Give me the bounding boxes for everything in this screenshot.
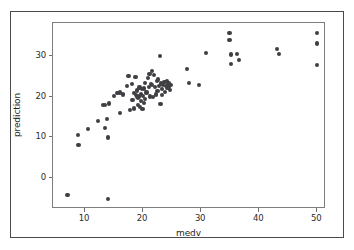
- data-point: [143, 81, 147, 85]
- data-point: [118, 111, 122, 115]
- data-point: [126, 74, 130, 78]
- y-tick-mark: [49, 55, 53, 56]
- data-point: [275, 47, 279, 51]
- data-point: [96, 119, 100, 123]
- data-point: [154, 92, 158, 96]
- y-tick-label: 30: [28, 50, 46, 60]
- data-point: [146, 76, 150, 80]
- y-axis-label: prediction: [12, 93, 22, 137]
- data-point: [158, 54, 162, 58]
- data-point: [130, 98, 134, 102]
- data-point: [204, 51, 208, 55]
- data-point: [132, 106, 136, 110]
- y-tick-mark: [49, 136, 53, 137]
- x-tick-label: 40: [253, 213, 263, 223]
- data-point: [121, 92, 125, 96]
- data-point: [227, 31, 231, 35]
- y-tick-mark: [49, 96, 53, 97]
- data-point: [185, 67, 189, 71]
- x-tick-mark: [316, 208, 317, 212]
- data-point: [277, 52, 281, 56]
- data-point: [103, 126, 107, 130]
- y-tick-label: 10: [28, 131, 46, 141]
- data-point: [163, 90, 167, 94]
- data-point: [105, 117, 109, 121]
- data-point: [107, 101, 111, 105]
- x-axis-label: medv: [52, 228, 325, 238]
- y-tick-label: 0: [28, 172, 46, 182]
- data-point: [187, 81, 191, 85]
- data-point: [133, 75, 137, 79]
- data-point: [197, 83, 201, 87]
- y-tick-label: 20: [28, 91, 46, 101]
- data-point: [155, 89, 159, 93]
- data-point: [140, 107, 144, 111]
- data-point: [125, 84, 129, 88]
- data-point: [237, 58, 241, 62]
- scatter-plot-figure: 10203040500102030 medv prediction: [0, 0, 354, 250]
- data-point: [168, 88, 172, 92]
- data-point: [143, 97, 147, 101]
- data-point: [158, 102, 162, 106]
- data-point: [106, 197, 110, 201]
- x-tick-label: 10: [79, 213, 89, 223]
- data-point: [315, 63, 319, 67]
- x-tick-label: 20: [137, 213, 147, 223]
- data-point: [76, 133, 80, 137]
- data-point: [229, 52, 233, 56]
- x-tick-mark: [142, 208, 143, 212]
- x-tick-label: 50: [311, 213, 321, 223]
- data-point: [235, 52, 239, 56]
- x-tick-mark: [200, 208, 201, 212]
- x-tick-mark: [258, 208, 259, 212]
- data-point: [106, 135, 110, 139]
- data-point: [315, 31, 319, 35]
- data-point: [86, 127, 90, 131]
- axes-frame: [52, 22, 325, 208]
- data-point: [229, 62, 233, 66]
- plot-data-area: [53, 23, 324, 207]
- data-point: [65, 193, 69, 197]
- data-point: [315, 41, 319, 45]
- x-tick-label: 30: [195, 213, 205, 223]
- data-point: [142, 101, 146, 105]
- x-tick-mark: [84, 208, 85, 212]
- y-tick-mark: [49, 177, 53, 178]
- data-point: [227, 38, 231, 42]
- data-point: [76, 143, 80, 147]
- data-point: [152, 73, 156, 77]
- data-point: [130, 82, 134, 86]
- data-point: [169, 83, 173, 87]
